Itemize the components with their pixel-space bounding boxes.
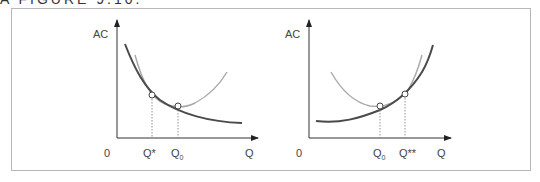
right-min-point: [377, 103, 383, 109]
right-q0-label: Q0: [373, 147, 386, 161]
right-tangency-point: [402, 91, 408, 97]
left-y-axis-label: AC: [93, 28, 108, 40]
left-qstar-label: Q*: [143, 147, 157, 159]
left-long-run-ac-curve: [125, 44, 242, 123]
left-panel: AC 0 Q* Q0 Q: [93, 20, 258, 161]
left-min-point: [175, 103, 181, 109]
left-origin-label: 0: [104, 147, 110, 159]
right-short-run-ac-curve: [331, 55, 422, 106]
right-origin-label: 0: [296, 147, 302, 159]
right-x-axis-label: Q: [437, 147, 446, 159]
left-x-axis-label: Q: [245, 147, 254, 159]
right-y-axis-label: AC: [285, 28, 300, 40]
right-qstarstar-label: Q**: [399, 147, 417, 159]
diagram-canvas: AC 0 Q* Q0 Q AC 0 Q0 Q** Q: [0, 0, 540, 182]
left-short-run-ac-curve: [135, 55, 227, 107]
right-panel: AC 0 Q0 Q** Q: [285, 20, 451, 161]
left-q0-sub: 0: [180, 154, 184, 161]
right-q0-sub: 0: [382, 154, 386, 161]
left-tangency-point: [149, 92, 155, 98]
left-q0-label: Q0: [171, 147, 184, 161]
right-long-run-ac-curve: [316, 45, 433, 122]
